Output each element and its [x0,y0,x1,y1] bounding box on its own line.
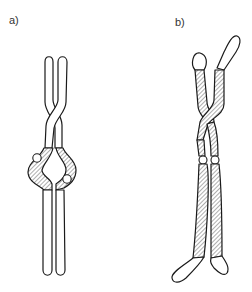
chromatid-a-lower-left [43,190,52,275]
chromatid-b-middle-left [197,140,205,156]
end-cap-b-upper-left [193,53,207,70]
chromatid-b-middle-right [207,122,218,156]
end-cap-b-upper-right [217,36,240,70]
end-cap-b-lower-right [211,256,228,274]
chromatid-b-lower-left [193,164,208,258]
chromatid-b-lower-right [211,164,222,258]
centromere-b-right [211,156,219,164]
centromere-a-left [33,154,41,162]
hatched-region-a-left [28,148,53,190]
chromosome-diagram [0,0,252,292]
panel-b-diagram [172,36,240,282]
hatched-region-a-right [56,148,76,190]
end-cap-b-lower-left [172,257,204,282]
centromere-b-left [199,156,207,164]
centromere-a-right [63,175,71,183]
panel-a-diagram [28,57,76,276]
chromatid-a-lower-right [56,190,65,275]
